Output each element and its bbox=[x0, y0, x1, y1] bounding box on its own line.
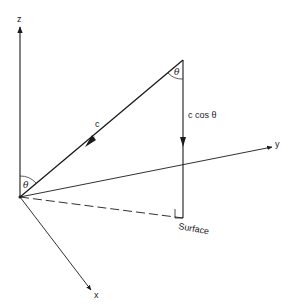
c-cos-theta-label: c cos θ bbox=[188, 110, 217, 120]
vector-c-label: c bbox=[95, 119, 100, 129]
vertical-arrow-icon bbox=[180, 137, 186, 147]
origin-theta-label: θ bbox=[23, 180, 29, 190]
origin-point bbox=[19, 196, 22, 199]
apex-theta-label: θ bbox=[174, 67, 180, 77]
x-axis: x bbox=[20, 197, 99, 300]
x-axis-label: x bbox=[94, 290, 99, 300]
right-angle-icon bbox=[175, 209, 183, 218]
surface-projection: Surface bbox=[20, 197, 210, 236]
apex-angle: θ bbox=[168, 67, 183, 79]
vector-c: c bbox=[20, 60, 183, 197]
origin-angle: θ bbox=[20, 176, 36, 190]
z-axis: z bbox=[17, 14, 22, 197]
vector-vertical-component: c cos θ bbox=[180, 60, 217, 218]
y-axis: y bbox=[20, 139, 280, 197]
z-axis-label: z bbox=[17, 14, 22, 24]
vector-diagram: z y x c c cos θ Surface θ θ bbox=[0, 0, 297, 307]
surface-label: Surface bbox=[178, 221, 210, 236]
y-axis-label: y bbox=[275, 139, 280, 149]
